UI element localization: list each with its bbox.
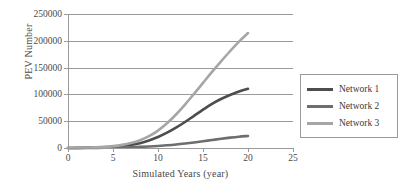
y-tick-mark: [64, 41, 68, 42]
legend-item[interactable]: Network 2: [307, 99, 397, 113]
legend-label: Network 2: [339, 101, 379, 111]
legend-item[interactable]: Network 1: [307, 82, 397, 96]
legend-line-swatch: [307, 122, 333, 125]
legend-label: Network 3: [339, 118, 379, 128]
legend-line-swatch: [307, 105, 333, 108]
y-tick-mark: [64, 14, 68, 15]
x-tick-label: 10: [143, 153, 173, 163]
plot-area: [68, 14, 293, 148]
x-tick-label: 25: [278, 153, 308, 163]
y-tick-label: 50000: [8, 116, 62, 126]
x-tick-mark: [203, 148, 204, 152]
x-tick-mark: [248, 148, 249, 152]
x-tick-label: 0: [53, 153, 83, 163]
y-tick-label: 150000: [8, 63, 62, 73]
x-axis-tick-labels: 0510152025: [68, 153, 293, 167]
legend-item[interactable]: Network 3: [307, 116, 397, 130]
y-tick-label: 200000: [8, 36, 62, 46]
x-tick-mark: [158, 148, 159, 152]
legend: Network 1Network 2Network 3: [300, 74, 398, 138]
y-tick-label: 100000: [8, 89, 62, 99]
y-tick-mark: [64, 121, 68, 122]
x-tick-label: 20: [233, 153, 263, 163]
legend-label: Network 1: [339, 84, 379, 94]
x-tick-mark: [293, 148, 294, 152]
y-tick-mark: [64, 68, 68, 69]
legend-line-swatch: [307, 88, 333, 91]
chart-figure: PEV Number 05000010000015000020000025000…: [0, 0, 412, 193]
series-lines: [68, 14, 293, 148]
x-tick-mark: [68, 148, 69, 152]
y-tick-label: 250000: [8, 9, 62, 19]
y-tick-label: 0: [8, 143, 62, 153]
x-tick-label: 15: [188, 153, 218, 163]
x-axis-title: Simulated Years (year): [68, 168, 293, 179]
series-line-network-3: [68, 33, 248, 148]
x-tick-label: 5: [98, 153, 128, 163]
y-tick-mark: [64, 94, 68, 95]
x-tick-mark: [113, 148, 114, 152]
y-axis-tick-labels: 050000100000150000200000250000: [8, 14, 62, 148]
